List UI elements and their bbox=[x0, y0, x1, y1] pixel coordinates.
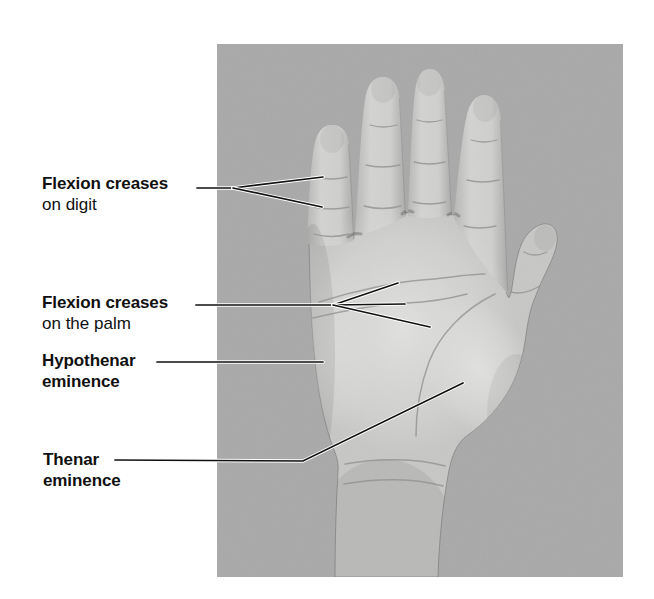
label-title-line2: eminence bbox=[42, 371, 135, 392]
label-hypothenar-eminence: Hypothenar eminence bbox=[42, 350, 135, 392]
photo-grain bbox=[217, 44, 623, 577]
hand-photo bbox=[217, 44, 623, 577]
label-subtitle: on the palm bbox=[42, 313, 168, 334]
label-title: Hypothenar bbox=[42, 350, 135, 371]
figure-page: Flexion creases on digit Flexion creases… bbox=[0, 0, 654, 599]
label-thenar-eminence: Thenar eminence bbox=[43, 449, 121, 491]
label-flexion-creases-palm: Flexion creases on the palm bbox=[42, 292, 168, 334]
hand-illustration bbox=[217, 44, 623, 577]
label-title: Flexion creases bbox=[42, 173, 168, 194]
label-subtitle: on digit bbox=[42, 194, 168, 215]
label-title: Thenar bbox=[43, 449, 121, 470]
label-title: Flexion creases bbox=[42, 292, 168, 313]
label-title-line2: eminence bbox=[43, 470, 121, 491]
label-flexion-creases-digit: Flexion creases on digit bbox=[42, 173, 168, 215]
